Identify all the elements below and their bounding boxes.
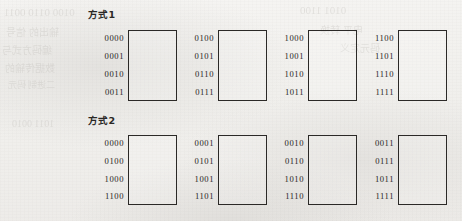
binary-code-label: 1110 <box>374 70 394 79</box>
code-group-box <box>128 135 177 205</box>
binary-code-label: 0010 <box>284 139 304 148</box>
binary-code-label: 1011 <box>374 175 394 184</box>
binary-code-label: 1110 <box>284 192 304 201</box>
binary-code-label: 0001 <box>104 52 124 61</box>
binary-code-label: 0000 <box>104 34 124 43</box>
binary-code-label: 0110 <box>284 157 304 166</box>
code-label-column: 0100010101100111 <box>194 30 218 101</box>
binary-code-label: 1101 <box>374 52 394 61</box>
code-group-box <box>218 135 267 205</box>
binary-code-label: 1001 <box>194 175 214 184</box>
bleed-through-text: 0101 1100 <box>300 4 346 16</box>
binary-code-label: 0101 <box>194 52 214 61</box>
scanned-page: 0100 0110 0011输出的 信号编码方式与数据传输的二进制 码元0101… <box>0 0 462 221</box>
binary-code-label: 0110 <box>194 70 214 79</box>
binary-code-label: 1100 <box>104 192 124 201</box>
code-label-column: 0011011110111111 <box>374 135 398 205</box>
code-group: 0000010010001100 <box>104 135 177 205</box>
binary-code-label: 1000 <box>104 175 124 184</box>
code-group-box <box>308 135 357 205</box>
code-label-column: 0000010010001100 <box>104 135 128 205</box>
code-group: 0100010101100111 <box>194 30 267 101</box>
binary-code-label: 1010 <box>284 175 304 184</box>
binary-code-label: 0111 <box>194 88 214 97</box>
section-title-1: 方式1 <box>88 7 115 21</box>
code-group: 1100110111101111 <box>374 30 447 101</box>
binary-code-label: 1111 <box>374 88 394 97</box>
binary-code-label: 1100 <box>374 34 394 43</box>
code-group-box <box>308 30 357 101</box>
binary-code-label: 0001 <box>194 139 214 148</box>
binary-code-label: 1111 <box>374 192 394 201</box>
section-title-2: 方式2 <box>88 113 115 127</box>
code-label-column: 1100110111101111 <box>374 30 398 101</box>
code-group-box <box>398 135 447 205</box>
binary-code-label: 0000 <box>104 139 124 148</box>
code-group-box <box>218 30 267 101</box>
code-group: 0000000100100011 <box>104 30 177 101</box>
binary-code-label: 1010 <box>284 70 304 79</box>
binary-code-label: 1001 <box>284 52 304 61</box>
bleed-through-text: 输出的 信号 <box>6 24 59 39</box>
bleed-through-text: 二进制 码元 <box>8 78 55 91</box>
bleed-through-text: 数据传输的 <box>5 60 55 75</box>
binary-code-label: 0100 <box>194 34 214 43</box>
code-label-column: 0000000100100011 <box>104 30 128 101</box>
bleed-through-text: 0100 0110 0011 <box>4 6 75 18</box>
binary-code-label: 0011 <box>104 88 124 97</box>
bleed-through-text: 1011 0010 <box>12 118 54 129</box>
code-group: 0010011010101110 <box>284 135 357 205</box>
code-group: 1000100110101011 <box>284 30 357 101</box>
binary-code-label: 0111 <box>374 157 394 166</box>
code-label-column: 1000100110101011 <box>284 30 308 101</box>
binary-code-label: 0101 <box>194 157 214 166</box>
binary-code-label: 1000 <box>284 34 304 43</box>
code-label-column: 0001010110011101 <box>194 135 218 205</box>
code-group-box <box>128 30 177 101</box>
binary-code-label: 1011 <box>284 88 304 97</box>
code-group: 0001010110011101 <box>194 135 267 205</box>
code-label-column: 0010011010101110 <box>284 135 308 205</box>
binary-code-label: 1101 <box>194 192 214 201</box>
code-group: 0011011110111111 <box>374 135 447 205</box>
code-group-box <box>398 30 447 101</box>
binary-code-label: 0010 <box>104 70 124 79</box>
binary-code-label: 0011 <box>374 139 394 148</box>
binary-code-label: 0100 <box>104 157 124 166</box>
bleed-through-text: 编码方式与 <box>2 42 52 57</box>
